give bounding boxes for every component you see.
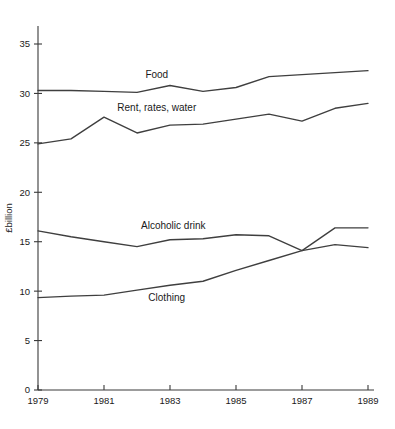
series-line-rent-rates-water [38,103,368,144]
x-tick-label: 1983 [159,395,180,406]
y-tick-label: 10 [19,286,30,297]
series-label-food: Food [145,69,168,80]
y-tick-label: 0 [25,384,30,395]
series-label-alcoholic-drink: Alcoholic drink [141,220,206,231]
y-axis-title: £billion [3,203,14,233]
x-tick-label: 1989 [357,395,378,406]
x-tick-label: 1985 [225,395,246,406]
line-chart: 05101520253035 197919811983198519871989 … [0,0,395,429]
axes [38,26,374,390]
y-axis-ticks: 05101520253035 [19,38,42,395]
series-label-clothing: Clothing [148,292,185,303]
x-axis-ticks: 197919811983198519871989 [27,385,378,406]
series-line-food [38,71,368,93]
series-labels: FoodRent, rates, waterAlcoholic drinkClo… [117,69,206,303]
chart-canvas: 05101520253035 197919811983198519871989 … [0,0,395,429]
x-tick-label: 1987 [291,395,312,406]
y-tick-label: 25 [19,137,30,148]
y-axis-title-text: £billion [3,203,14,233]
series-line-clothing [38,245,368,298]
y-tick-label: 30 [19,88,30,99]
x-tick-label: 1979 [27,395,48,406]
y-tick-label: 15 [19,236,30,247]
y-tick-label: 5 [25,335,30,346]
y-tick-label: 20 [19,187,30,198]
y-tick-label: 35 [19,38,30,49]
series-label-rent-rates-water: Rent, rates, water [117,102,197,113]
data-series [38,71,368,298]
x-tick-label: 1981 [93,395,114,406]
